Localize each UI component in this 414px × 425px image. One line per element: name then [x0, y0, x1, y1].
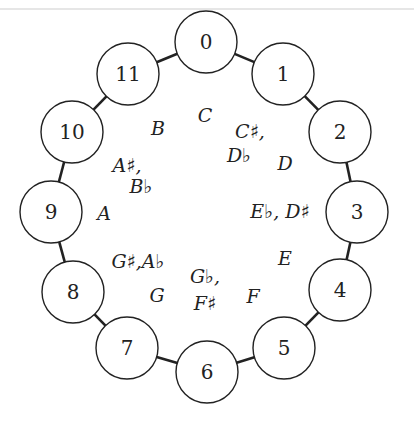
node-2: 2: [309, 101, 371, 163]
edge-0-1: [235, 54, 255, 62]
note-label-pc-8: G♯,A♭: [111, 250, 164, 272]
edge-4-5: [306, 312, 319, 325]
edge-9-10: [59, 162, 64, 182]
pitch-class-circle-diagram: 01234567891011 CC♯,D♭DE♭, D♯EFG♭,F♯GG♯,A…: [0, 0, 414, 425]
note-name-labels: CC♯,D♭DE♭, D♯EFG♭,F♯GG♯,A♭AA♯,B♭B: [95, 104, 310, 314]
node-number: 9: [45, 200, 58, 224]
note-label-pc-11: B: [150, 117, 165, 139]
node-11: 11: [97, 43, 159, 105]
node-3: 3: [326, 181, 388, 243]
note-label-pc-9: A: [95, 202, 111, 224]
note-label-pc-1: D♭: [226, 144, 251, 166]
edge-11-0: [157, 54, 178, 62]
note-label-pc-6: F♯: [193, 292, 216, 314]
node-10: 10: [41, 101, 103, 163]
node-8: 8: [42, 261, 104, 323]
edge-2-3: [346, 162, 350, 181]
node-number: 3: [351, 200, 364, 224]
node-1: 1: [252, 43, 314, 105]
note-label-pc-10: B♭: [129, 175, 153, 197]
edge-1-2: [305, 96, 319, 110]
note-label-pc-5: F: [245, 285, 260, 307]
edge-6-7: [157, 357, 178, 363]
node-7: 7: [96, 317, 158, 379]
note-label-pc-1: C♯,: [235, 120, 265, 142]
note-label-pc-10: A♯,: [111, 154, 142, 176]
note-label-pc-6: G♭,: [190, 265, 220, 287]
note-label-pc-2: D: [276, 152, 292, 174]
node-6: 6: [176, 341, 238, 403]
node-number: 1: [277, 62, 290, 86]
node-number: 2: [334, 120, 347, 144]
node-number: 11: [115, 62, 140, 86]
note-label-pc-3: E♭, D♯: [249, 200, 309, 222]
node-number: 8: [67, 280, 80, 304]
pitch-class-nodes: 01234567891011: [20, 11, 388, 403]
note-label-pc-7: G: [149, 284, 164, 306]
note-label-pc-4: E: [277, 247, 292, 269]
edge-8-9: [59, 242, 65, 262]
edge-10-11: [94, 96, 107, 109]
node-number: 10: [59, 120, 84, 144]
node-number: 7: [121, 336, 134, 360]
node-9: 9: [20, 181, 82, 243]
node-4: 4: [309, 259, 371, 321]
node-number: 5: [278, 336, 291, 360]
edge-5-6: [237, 357, 255, 363]
node-0: 0: [175, 11, 237, 73]
node-5: 5: [253, 317, 315, 379]
node-number: 6: [201, 360, 214, 384]
node-number: 4: [334, 278, 347, 302]
edge-3-4: [347, 242, 351, 259]
note-label-pc-0: C: [198, 104, 213, 126]
edge-7-8: [95, 314, 106, 325]
node-number: 0: [200, 30, 213, 54]
